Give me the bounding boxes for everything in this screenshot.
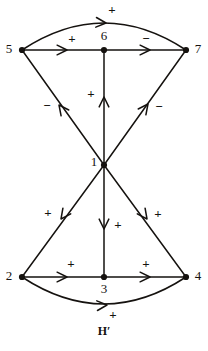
sign-label-1-6: + — [87, 86, 94, 101]
sign-label-1-5: − — [43, 98, 50, 113]
vertex-dot-4[interactable] — [183, 274, 189, 280]
sign-label-6-7: − — [142, 31, 149, 46]
vertex-dot-1[interactable] — [101, 162, 107, 168]
sign-label-5-7: + — [108, 2, 115, 17]
vertex-label-1: 1 — [91, 154, 98, 169]
sign-label-1-4: + — [154, 206, 161, 221]
vertex-dot-7[interactable] — [183, 47, 189, 53]
vertex-dot-3[interactable] — [101, 274, 107, 280]
arrowhead-e-2-4 — [97, 301, 107, 311]
sign-label-3-4: + — [142, 256, 149, 271]
vertex-label-3: 3 — [101, 281, 108, 296]
vertex-dot-5[interactable] — [19, 47, 25, 53]
vertex-label-6: 6 — [101, 28, 108, 43]
figure-caption: H′ — [98, 324, 111, 338]
vertex-dot-6[interactable] — [101, 47, 107, 53]
sign-label-5-6: + — [68, 31, 75, 46]
figure-container: 1234567 +−+−+−++++++ H′ — [0, 0, 208, 351]
vertex-label-5: 5 — [6, 41, 13, 56]
vertex-label-7: 7 — [195, 41, 202, 56]
sign-label-1-7: − — [155, 99, 162, 114]
sign-label-1-2: + — [44, 205, 51, 220]
edge-1-2 — [22, 165, 104, 277]
vertex-dot-2[interactable] — [19, 274, 25, 280]
vertex-label-4: 4 — [195, 268, 202, 283]
sign-label-2-3: + — [67, 256, 74, 271]
vertex-label-2: 2 — [6, 268, 13, 283]
sign-label-1-3: + — [114, 217, 121, 232]
signed-digraph-svg: 1234567 +−+−+−++++++ H′ — [0, 0, 208, 351]
edge-1-7 — [104, 50, 186, 165]
sign-label-2-4: + — [109, 307, 116, 322]
